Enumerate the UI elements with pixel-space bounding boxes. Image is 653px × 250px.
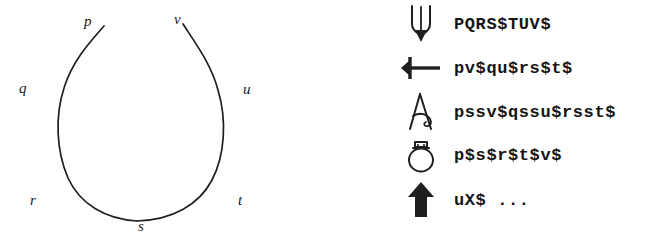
loop-label-s: s [138, 219, 144, 234]
open-loop-curve [0, 0, 326, 250]
legend-row: PQRS$TUV$ [326, 2, 551, 46]
loop-label-u: u [243, 82, 251, 97]
legend-panel: PQRS$TUV$ pv$qu$rs$t$ [326, 0, 653, 250]
loop-right-branch [137, 24, 224, 221]
left-arrow-with-crossbar-icon [392, 46, 450, 90]
loop-label-t: t [238, 193, 242, 208]
loop-left-branch [58, 26, 137, 221]
loop-label-q: q [19, 81, 27, 96]
legend-row: pssv$qssu$rsst$ [326, 90, 616, 134]
circle-with-box-top-icon [392, 133, 450, 177]
loop-label-r: r [30, 193, 36, 208]
legend-code-2: pssv$qssu$rsst$ [454, 103, 616, 122]
loop-label-v: v [174, 12, 181, 27]
legend-row: p$s$r$t$v$ [326, 133, 562, 177]
solid-up-arrow-icon [392, 178, 450, 222]
figure-root: p v q u r t s PQRS$TUV$ [0, 0, 653, 250]
legend-code-1: pv$qu$rs$t$ [454, 59, 573, 78]
legend-row: uX$ ... [326, 178, 530, 222]
legend-code-0: PQRS$TUV$ [454, 15, 551, 34]
letter-a-loop-icon [392, 90, 450, 134]
legend-row: pv$qu$rs$t$ [326, 46, 573, 90]
loop-label-p: p [84, 14, 92, 29]
tuning-fork-pointed-icon [392, 2, 450, 46]
legend-code-4: uX$ ... [454, 191, 530, 210]
legend-code-3: p$s$r$t$v$ [454, 146, 562, 165]
loop-diagram-panel: p v q u r t s [0, 0, 326, 250]
